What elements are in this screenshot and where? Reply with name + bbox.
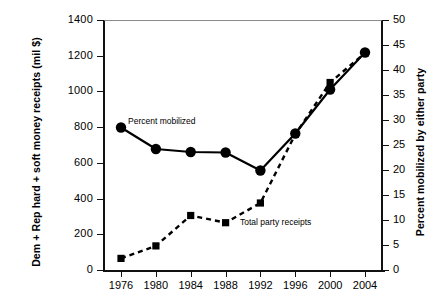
data-point-marker	[151, 144, 161, 154]
data-point-marker	[292, 131, 299, 138]
data-point-marker	[257, 199, 264, 206]
data-point-marker	[187, 212, 194, 219]
data-point-marker	[361, 49, 368, 56]
data-point-marker	[152, 242, 159, 249]
chart-container: 1400120010008006004002000 50454035302520…	[0, 0, 440, 306]
data-point-marker	[222, 219, 229, 226]
annotation-total-party-receipts: Total party receipts	[240, 218, 311, 227]
data-point-marker	[186, 147, 196, 157]
data-point-marker	[327, 79, 334, 86]
data-point-marker	[255, 165, 265, 175]
series-layer	[0, 0, 440, 306]
annotation-percent-mobilized: Percent mobilized	[128, 117, 196, 126]
data-point-marker	[116, 122, 126, 132]
data-point-marker	[220, 147, 230, 157]
data-point-marker	[117, 255, 124, 262]
